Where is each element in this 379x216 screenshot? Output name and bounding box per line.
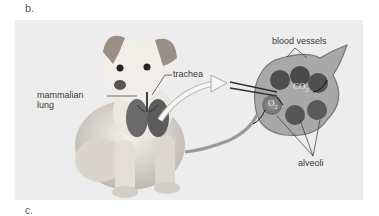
label-blood-vessels: blood vessels — [272, 36, 327, 46]
label-trachea: trachea — [173, 69, 203, 79]
label-o2: O2 — [268, 98, 278, 110]
dog-illustration — [75, 36, 185, 198]
alveoli-illustration — [185, 45, 347, 152]
panel-label-b: b. — [25, 2, 34, 14]
panel-label-c: c. — [25, 205, 33, 216]
label-co2: CO2 — [293, 81, 309, 93]
figure-panel: trachea mammalian lung blood vessels CO2… — [15, 20, 363, 200]
label-mammalian-lung: mammalian lung — [37, 90, 84, 110]
label-alveoli: alveoli — [298, 158, 324, 168]
illustration — [15, 20, 363, 200]
